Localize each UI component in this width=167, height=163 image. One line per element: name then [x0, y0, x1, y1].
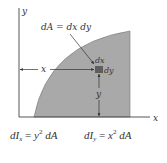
formula-tail: dA [45, 129, 57, 141]
formula-dIx: dIx = y2 dA [10, 128, 57, 143]
formula-subscript: x [19, 135, 22, 143]
dy-label: dy [104, 66, 114, 75]
formula-lhs: dI [10, 129, 19, 141]
formula-lhs: dI [84, 129, 93, 141]
dx-label: dx [95, 56, 105, 65]
y-axis-label: y [21, 6, 28, 16]
formula-dIy: dIy = x2 dA [84, 128, 131, 143]
vertical-distance-label: y [95, 89, 102, 99]
shaded-area-region [34, 31, 130, 117]
formula-power: 2 [113, 128, 117, 136]
formula-subscript: y [93, 135, 96, 143]
x-axis-label: x [153, 113, 158, 123]
horizontal-distance-label: x [41, 64, 46, 74]
area-element-square [95, 66, 103, 73]
element-label: dA = dx dy [41, 22, 92, 32]
formula-tail: dA [119, 129, 131, 141]
formula-power: 2 [39, 128, 43, 136]
